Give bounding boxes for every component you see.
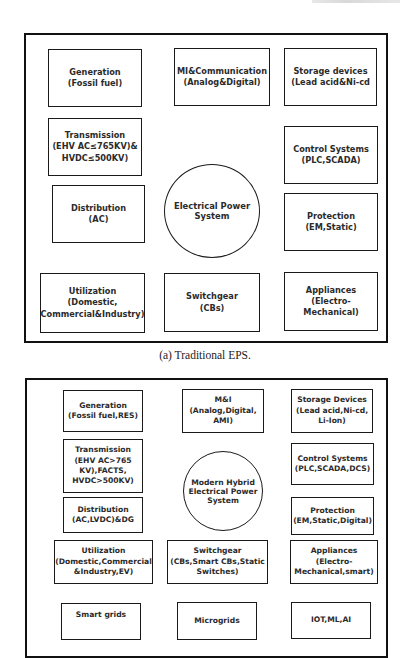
box-transmission: Transmission (EHV AC≤765KV)& HVDC≤500KV) <box>48 118 142 176</box>
box-mi-communication: MI&Communication (Analog&Digital) <box>174 48 270 106</box>
box-iot-ml-ai: IOT,ML,AI <box>291 602 371 639</box>
box-protection: Protection (EM,Static) <box>284 193 378 251</box>
box-appliances-b: Appliances (Electro- Mechanical,smart) <box>290 540 378 584</box>
box-microgrids: Microgrids <box>177 602 257 640</box>
center-modern-hybrid-eps: Modern Hybrid Electrical Power System <box>183 451 263 531</box>
box-control-systems: Control Systems (PLC,SCADA) <box>284 126 378 184</box>
box-smart-grids: Smart grids <box>61 603 141 640</box>
box-distribution: Distribution (AC) <box>52 185 145 243</box>
center-electrical-power-system: Electrical Power System <box>164 164 260 258</box>
box-transmission-b: Transmission (EHV AC>765 KV),FACTS, HVDC… <box>63 439 143 493</box>
figure-a-caption: (a) Traditional EPS. <box>0 349 410 361</box>
page-header-fragment <box>312 0 400 3</box>
box-appliances: Appliances (Electro- Mechanical) <box>284 272 378 331</box>
box-control-systems-b: Control Systems (PLC,SCADA,DCS) <box>291 443 374 485</box>
box-protection-b: Protection (EM,Static,Digital) <box>291 497 374 535</box>
box-generation: Generation (Fossil fuel) <box>48 49 142 107</box>
box-switchgear-b: Switchgear (CBs,Smart CBs,Static Switche… <box>167 540 268 584</box>
box-storage-devices: Storage devices (Lead acid&Ni-cd <box>284 48 377 106</box>
box-mi-b: M&I (Analog,Digital, AMI) <box>182 389 264 433</box>
box-generation-b: Generation (Fossil fuel,RES) <box>63 390 143 432</box>
box-utilization: Utilization (Domestic, Commercial&Indust… <box>40 273 145 333</box>
box-storage-devices-b: Storage Devices (Lead acid,Ni-cd, Li-Ion… <box>291 389 373 433</box>
box-utilization-b: Utilization (Domestic,Commercial &Indust… <box>54 540 153 584</box>
box-switchgear: Switchgear (CBs) <box>164 273 260 332</box>
box-distribution-b: Distribution (AC,LVDC)&DG <box>63 497 143 533</box>
